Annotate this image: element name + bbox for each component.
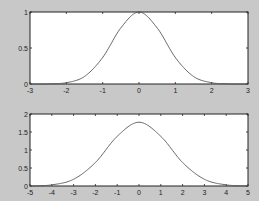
y-tick-label: 0.5 bbox=[18, 45, 28, 52]
x-tick-label: 2 bbox=[210, 87, 214, 94]
x-tick-label: -4 bbox=[49, 189, 55, 196]
x-tick-label: 1 bbox=[173, 87, 177, 94]
x-tick-label: 4 bbox=[224, 189, 228, 196]
y-tick-label: 0 bbox=[24, 183, 28, 190]
plot-area bbox=[30, 114, 248, 186]
figure-canvas: -3-2-1012300.51-5-4-3-2-101234500.511.52 bbox=[0, 0, 259, 210]
x-tick-label: -3 bbox=[70, 189, 76, 196]
axes-2: -5-4-3-2-101234500.511.52 bbox=[18, 111, 250, 197]
x-tick-label: -1 bbox=[114, 189, 120, 196]
x-tick-label: 3 bbox=[246, 87, 250, 94]
x-tick-label: 3 bbox=[202, 189, 206, 196]
plot-area bbox=[30, 12, 248, 84]
x-tick-label: 0 bbox=[137, 189, 141, 196]
x-tick-label: -2 bbox=[63, 87, 69, 94]
y-tick-label: 1 bbox=[24, 147, 28, 154]
y-tick-label: 0.5 bbox=[18, 165, 28, 172]
x-tick-label: -3 bbox=[27, 87, 33, 94]
x-tick-label: -2 bbox=[92, 189, 98, 196]
x-tick-label: -1 bbox=[100, 87, 106, 94]
y-tick-label: 2 bbox=[24, 111, 28, 118]
y-tick-label: 1.5 bbox=[18, 129, 28, 136]
y-tick-label: 0 bbox=[24, 81, 28, 88]
x-tick-label: 0 bbox=[137, 87, 141, 94]
x-tick-label: 1 bbox=[159, 189, 163, 196]
axes-1: -3-2-1012300.51 bbox=[18, 9, 250, 95]
x-tick-label: -5 bbox=[27, 189, 33, 196]
x-tick-label: 2 bbox=[181, 189, 185, 196]
x-tick-label: 5 bbox=[246, 189, 250, 196]
y-tick-label: 1 bbox=[24, 9, 28, 16]
